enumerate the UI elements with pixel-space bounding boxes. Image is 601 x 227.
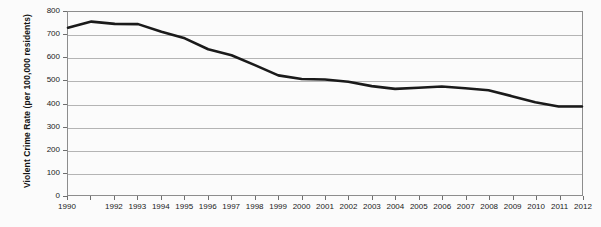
- x-axis-tick-label: 1996: [199, 202, 217, 211]
- x-axis-tick-label: 1992: [105, 202, 123, 211]
- x-axis-tick-mark: [90, 196, 91, 200]
- y-axis-tick-label: 400: [47, 99, 60, 108]
- x-axis-tick-mark: [184, 196, 185, 200]
- y-axis-tick-label: 100: [47, 168, 60, 177]
- x-axis-tick-mark: [161, 196, 162, 200]
- x-axis-tick-label: 2010: [527, 202, 545, 211]
- x-axis-tick-label: 2005: [410, 202, 428, 211]
- x-axis-tick-mark: [325, 196, 326, 200]
- x-axis-tick-label: 1999: [269, 202, 287, 211]
- y-axis-tick: 500: [0, 80, 67, 81]
- x-axis-tick-mark: [278, 196, 279, 200]
- x-axis-tick-mark: [231, 196, 232, 200]
- x-axis-tick-label: 2009: [504, 202, 522, 211]
- x-axis-tick-mark: [489, 196, 490, 200]
- x-axis-tick-label: 1998: [246, 202, 264, 211]
- x-axis-tick-label: 1994: [152, 202, 170, 211]
- violent-crime-rate-line-chart: Violent Crime Rate (per 100,000 resident…: [0, 0, 601, 227]
- x-axis-tick-label: 2007: [457, 202, 475, 211]
- y-axis-tick-label: 600: [47, 52, 60, 61]
- x-axis-tick-label: 2006: [433, 202, 451, 211]
- x-axis-tick-mark: [348, 196, 349, 200]
- x-axis-tick-label: 2008: [480, 202, 498, 211]
- x-axis-tick-mark: [513, 196, 514, 200]
- x-axis-tick-label: 2000: [293, 202, 311, 211]
- x-axis-tick-mark: [114, 196, 115, 200]
- x-axis-tick-mark: [442, 196, 443, 200]
- x-axis-tick-mark: [536, 196, 537, 200]
- series-line-violent-crime-rate: [68, 12, 582, 195]
- x-axis-tick-label: 2004: [386, 202, 404, 211]
- y-axis-tick: 300: [0, 127, 67, 128]
- x-axis-tick-label: 2011: [551, 202, 568, 211]
- x-axis-tick-mark: [583, 196, 584, 200]
- y-axis-tick-label: 300: [47, 122, 60, 131]
- x-axis-tick-mark: [395, 196, 396, 200]
- x-axis-tick-mark: [419, 196, 420, 200]
- x-axis-tick-label: 2012: [574, 202, 592, 211]
- y-axis-tick-label: 500: [47, 75, 60, 84]
- y-axis-tick: 600: [0, 57, 67, 58]
- y-axis-tick: 100: [0, 173, 67, 174]
- x-axis-tick-label: 2002: [340, 202, 358, 211]
- x-axis-tick-mark: [67, 196, 68, 200]
- x-axis-tick-mark: [137, 196, 138, 200]
- y-axis-tick-label: 700: [47, 29, 60, 38]
- x-axis-tick-label: 2003: [363, 202, 381, 211]
- y-axis-tick: 200: [0, 150, 67, 151]
- y-axis-tick: 800: [0, 11, 67, 12]
- y-axis-tick: 400: [0, 104, 67, 105]
- y-axis-tick-label: 800: [47, 6, 60, 15]
- x-axis-tick-label: 1990: [58, 202, 76, 211]
- x-axis-tick-mark: [208, 196, 209, 200]
- x-axis-tick-label: 1995: [175, 202, 193, 211]
- y-axis-tick: 700: [0, 34, 67, 35]
- y-axis-tick-label: 200: [47, 145, 60, 154]
- x-axis-tick-mark: [466, 196, 467, 200]
- x-axis-tick-label: 2001: [316, 202, 334, 211]
- plot-area: [67, 11, 583, 196]
- x-axis-tick-label: 1993: [128, 202, 146, 211]
- x-axis-tick-mark: [255, 196, 256, 200]
- x-axis-tick-mark: [560, 196, 561, 200]
- x-axis-ticks: 1990199219931994199519961997199819992000…: [0, 196, 601, 227]
- x-axis-tick-label: 1997: [222, 202, 240, 211]
- x-axis-tick-mark: [372, 196, 373, 200]
- x-axis-tick-mark: [302, 196, 303, 200]
